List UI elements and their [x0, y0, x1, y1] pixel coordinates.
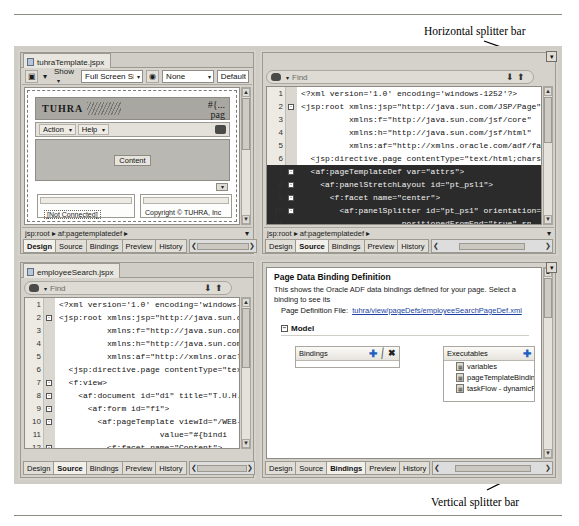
source-scroll-up-button-top[interactable]: ▲ [544, 87, 552, 96]
tab-design-bottom-left[interactable]: Design [23, 461, 54, 475]
pencil-icon[interactable]: ╱ [379, 348, 387, 358]
account-icon[interactable] [215, 125, 226, 134]
find-options-caret-icon[interactable]: ▾ [286, 74, 289, 81]
design-canvas[interactable]: TUHRA #{... pag Action ▾ [24, 87, 240, 225]
source-hscrollbar-top[interactable]: ❮ ❯ [431, 239, 553, 253]
code-line[interactable]: 2-<jsp:root xmlns:jsp="http://java.sun.c… [267, 100, 541, 113]
code-line[interactable]: 2-<jsp:root xmlns:jsp="http://java.sun.c… [25, 311, 239, 324]
source-scroll-thumb-bottom[interactable] [242, 308, 250, 368]
hscroll-thumb[interactable] [197, 243, 249, 250]
device-preview-icon[interactable]: ▣ [25, 70, 38, 83]
find-input-top[interactable]: Find [292, 73, 308, 82]
find-input-bottom[interactable]: Find [50, 284, 66, 293]
find-bar-top[interactable]: ▾ Find ⬇ ⬆ [266, 70, 534, 84]
source-breadcrumb-top[interactable]: jsp:root ▸ af:pagetemplatedef ▸ ▾ [264, 227, 554, 239]
fold-toggle-icon[interactable]: - [285, 104, 297, 110]
tab-source-bottom-left[interactable]: Source [53, 461, 86, 475]
tab-history-bottom-right[interactable]: History [399, 461, 430, 475]
tab-bindings-bottom-left[interactable]: Bindings [86, 461, 123, 475]
hscroll-thumb-bottom[interactable] [197, 465, 247, 472]
design-breadcrumb[interactable]: jsp:root ▸ af:pagetemplatedef ▸ ▾ [22, 227, 252, 239]
design-vscrollbar[interactable]: ▲ ▼ [241, 87, 251, 225]
find-options-caret-icon-2[interactable]: ▾ [44, 285, 47, 292]
tab-history[interactable]: History [155, 239, 186, 253]
document-tab-tuhratemplate[interactable]: tuhraTemplate.jspx [23, 53, 111, 68]
find-prev-icon[interactable]: ⬆ [517, 73, 525, 82]
subpanel-left[interactable]: [Not Connected] [37, 194, 135, 218]
design-scroll-thumb[interactable] [242, 98, 250, 150]
source-breadcrumb-caret-icon-top[interactable]: ▾ [547, 229, 551, 238]
code-line[interactable]: 5 xmlns:af="http://xmlns.oracle [25, 350, 239, 363]
code-line[interactable]: 9- <f:facet name="center"> [267, 191, 541, 204]
find-next-icon[interactable]: ⬇ [506, 73, 514, 82]
bindings-scroll-down-button[interactable]: ▼ [544, 449, 552, 458]
source-vscrollbar-top[interactable]: ▲ ▼ [543, 86, 553, 225]
fold-toggle-icon[interactable]: - [43, 419, 55, 425]
code-line[interactable]: 7- <af:pageTemplateDef var="attrs"> [267, 165, 541, 178]
code-line[interactable]: 3 xmlns:f="http://java.sun.com/jsf/core" [267, 113, 541, 126]
code-line[interactable]: 12- <f:facet name="Content"> [25, 441, 239, 449]
source-editor-bottom[interactable]: 1<?xml version='1.0' encoding='windows-1… [24, 297, 240, 449]
default-combo[interactable]: Default [217, 70, 249, 83]
tab-bindings[interactable]: Bindings [86, 239, 123, 253]
source-hscrollbar-bottom[interactable]: ❮ ❯ [189, 461, 255, 475]
hscroll-right-icon[interactable]: ❯ [249, 242, 255, 250]
hscroll-right-icon-top[interactable]: ❯ [545, 242, 551, 250]
skin-combo[interactable]: None ▾ [162, 70, 214, 83]
tab-preview-bottom-right[interactable]: Preview [365, 461, 400, 475]
code-line[interactable]: 6 <jsp:directive.page contentType="text/… [267, 152, 541, 165]
tab-source-top-right[interactable]: Source [295, 239, 328, 253]
source-scroll-down-button-top[interactable]: ▼ [544, 215, 552, 224]
hscroll-thumb-top[interactable] [459, 243, 525, 250]
screen-size-combo[interactable]: Full Screen Size ▾ [81, 70, 143, 83]
executable-item-pagetemplatebinding[interactable]: ▦ pageTemplateBinding [444, 372, 534, 383]
code-line[interactable]: 6 <jsp:directive.page contentType="text [25, 363, 239, 376]
code-line[interactable]: 11 value="#{bindi [25, 428, 239, 441]
source-editor-top[interactable]: 1<?xml version='1.0' encoding='windows-1… [266, 86, 542, 225]
fold-toggle-icon[interactable]: - [43, 380, 55, 386]
code-line[interactable]: 10- <af:panelSplitter id="pt_ps1" orient… [267, 204, 541, 217]
fold-toggle-icon[interactable]: - [285, 169, 297, 175]
tab-source[interactable]: Source [55, 239, 87, 253]
fold-toggle-icon[interactable]: - [43, 315, 55, 321]
code-line[interactable]: 10- <af:pageTemplate viewId="/WEB-I [25, 415, 239, 428]
tab-bindings-bottom-right[interactable]: Bindings [326, 461, 366, 475]
plus-icon[interactable]: ✚ [369, 349, 377, 358]
horizontal-splitter-button[interactable]: ▾ [546, 51, 557, 62]
design-hscrollbar[interactable]: ❮ ❯ [189, 239, 257, 253]
refresh-icon[interactable]: ◉ [146, 70, 159, 83]
fold-toggle-icon[interactable]: - [285, 195, 297, 201]
plus-icon-2[interactable]: ✚ [523, 349, 531, 358]
tab-preview[interactable]: Preview [122, 239, 157, 253]
code-line[interactable]: 8- <af:panelStretchLayout id="pt_psl1"> [267, 178, 541, 191]
page-definition-link[interactable]: tuhra/view/pageDefs/employeeSearchPageDe… [352, 306, 522, 315]
fold-toggle-icon[interactable]: - [43, 406, 55, 412]
bindings-scroll-thumb[interactable] [544, 278, 552, 318]
content-facet-region[interactable]: Content [35, 139, 230, 181]
code-line[interactable]: 7- <f:view> [25, 376, 239, 389]
bindings-editor[interactable]: Page Data Binding Definition This shows … [266, 267, 542, 459]
design-breadcrumb-caret-icon[interactable]: ▾ [245, 229, 249, 238]
tab-history-bottom-left[interactable]: History [155, 461, 186, 475]
source-scroll-up-button-bottom[interactable]: ▲ [242, 298, 250, 307]
tab-design-top-right[interactable]: Design [265, 239, 296, 253]
code-line[interactable]: 4 xmlns:h="http://java.sun.com/jsf/html" [267, 126, 541, 139]
model-expand-icon[interactable]: − [281, 325, 288, 332]
design-scroll-up-button[interactable]: ▲ [242, 88, 250, 97]
code-line[interactable]: 9- <af:form id="f1"> [25, 402, 239, 415]
find-prev-icon-2[interactable]: ⬆ [215, 284, 223, 293]
executables-box[interactable]: Executables ✚ ▦ variables ▦ [443, 346, 535, 402]
tab-design-bottom-right[interactable]: Design [265, 461, 296, 475]
find-bar-bottom[interactable]: ▾ Find ⬇ ⬆ [24, 281, 232, 295]
tab-bindings-top-right[interactable]: Bindings [328, 239, 365, 253]
code-line[interactable]: 4 xmlns:h="http://java.sun.com/ [25, 337, 239, 350]
menu-action[interactable]: Action ▾ [39, 124, 76, 135]
code-line[interactable]: 1<?xml version='1.0' encoding='windows-1… [267, 87, 541, 100]
code-line[interactable]: 8- <af:document id="d1" title="T.U.H.R [25, 389, 239, 402]
tab-source-bottom-right[interactable]: Source [295, 461, 327, 475]
source-vscrollbar-bottom[interactable]: ▲ ▼ [241, 297, 251, 449]
hscroll-thumb-br[interactable] [455, 465, 531, 472]
code-line[interactable]: 3 xmlns:f="http://java.sun.com/ [25, 324, 239, 337]
vertical-splitter-button[interactable]: ▾ [546, 262, 557, 273]
code-line[interactable]: 5 xmlns:af="http://xmlns.oracle.com/adf/… [267, 139, 541, 152]
